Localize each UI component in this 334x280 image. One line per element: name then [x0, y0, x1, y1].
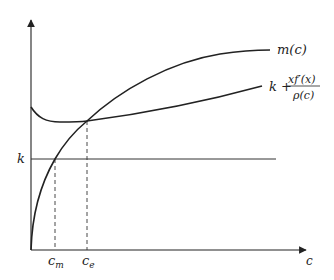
c-m-label: cm	[48, 253, 64, 270]
k-plus-numerator: xf′(x)	[288, 73, 316, 86]
x-axis-label: c	[306, 254, 313, 268]
m-curve-label: m(c)	[277, 42, 307, 57]
k-plus-curve	[31, 86, 262, 122]
k-plus-denominator: ρ(c)	[292, 89, 314, 102]
m-curve	[31, 50, 270, 250]
c-e-label: ce	[82, 253, 95, 270]
diagram-canvas: k m(c) k + xf′(x) ρ(c) cm ce c	[0, 0, 334, 280]
k-axis-label: k	[17, 151, 25, 166]
